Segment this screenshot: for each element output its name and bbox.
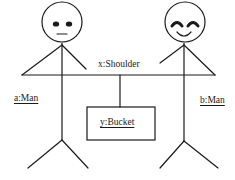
man-b-right-leg	[184, 141, 218, 168]
object-diagram	[0, 0, 235, 180]
man-a-left-arm	[22, 45, 62, 75]
man-a-right-leg	[62, 140, 88, 168]
man-a-head	[42, 2, 82, 42]
man-b-left-arm	[160, 45, 184, 63]
man-b-left-eye-icon	[172, 23, 182, 27]
man-b-right-eye-icon	[188, 23, 198, 27]
man-b-right-arm	[184, 45, 215, 75]
man-b-smile	[177, 32, 191, 36]
man-a-left-eye-icon	[53, 21, 59, 26]
man-b-figure	[160, 2, 218, 168]
man-a-figure	[22, 2, 88, 168]
man-a-right-arm	[62, 45, 86, 69]
man-a-label: a:Man	[14, 94, 38, 104]
shoulder-label: x:Shoulder	[98, 60, 140, 70]
man-b-label: b:Man	[200, 96, 225, 106]
man-b-left-leg	[160, 141, 184, 168]
man-a-left-leg	[28, 140, 62, 168]
man-a-right-eye-icon	[66, 21, 72, 26]
bucket-label: y:Bucket	[100, 118, 134, 128]
